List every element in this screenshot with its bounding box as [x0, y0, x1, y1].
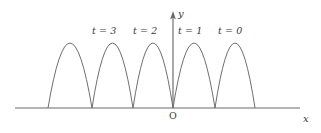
origin-label: O: [169, 111, 177, 121]
figure-canvas: [0, 0, 321, 133]
parabola-family-figure: t = 3 t = 2 t = 1 t = 0 y x O: [0, 0, 321, 133]
parabola-arch: [133, 43, 173, 108]
parabola-arch: [215, 43, 255, 108]
y-axis-label: y: [178, 9, 184, 19]
parabola-curves: [48, 43, 255, 108]
curve-label-t2: t = 2: [133, 26, 157, 36]
curve-label-t3: t = 3: [92, 26, 116, 36]
parabola-arch: [48, 43, 92, 108]
parabola-arch: [92, 43, 133, 108]
curve-label-t0: t = 0: [218, 26, 242, 36]
coordinate-axes: [15, 11, 300, 108]
parabola-arch: [173, 43, 215, 108]
x-axis-label: x: [303, 114, 309, 124]
curve-label-t1: t = 1: [178, 26, 202, 36]
